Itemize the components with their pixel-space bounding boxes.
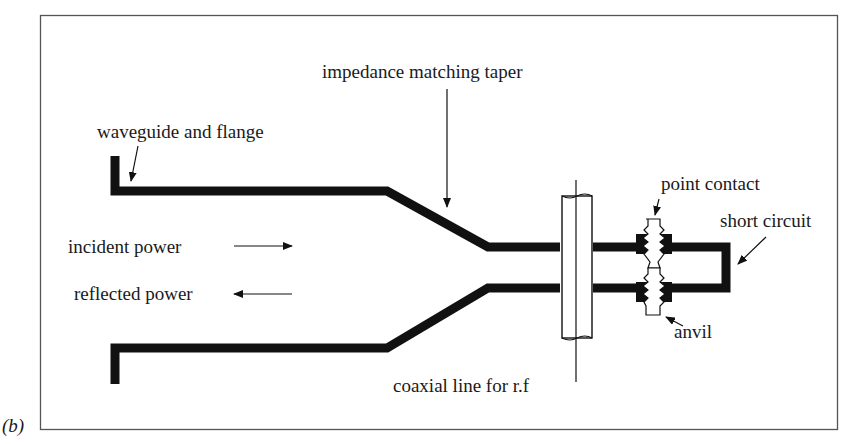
waveguide-arrow <box>131 146 138 181</box>
waveguide-label: waveguide and flange <box>97 121 264 142</box>
panel-label: (b) <box>2 415 24 437</box>
point-contact-label: point contact <box>661 173 760 194</box>
coaxial-rf-tube <box>562 180 592 382</box>
short-circuit-label: short circuit <box>720 210 812 231</box>
anvil-label: anvil <box>674 321 712 342</box>
upper-waveguide-wall <box>115 156 560 247</box>
point-contact-assembly <box>636 219 672 315</box>
point-contact-arrow <box>655 199 659 215</box>
waveguide-detector-diagram: waveguide and flange impedance matching … <box>0 0 847 444</box>
coax-label: coaxial line for r.f <box>393 375 530 396</box>
incident-label: incident power <box>68 236 182 257</box>
taper-label: impedance matching taper <box>322 61 523 82</box>
short-circuit-arrow <box>738 237 766 264</box>
reflected-label: reflected power <box>74 283 193 304</box>
